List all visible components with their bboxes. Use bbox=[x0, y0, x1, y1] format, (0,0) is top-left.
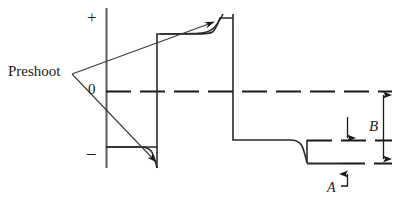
a-dimension-label: A bbox=[327, 181, 336, 195]
zero-axis-label: 0 bbox=[88, 82, 96, 97]
preshoot-label: Preshoot bbox=[8, 64, 61, 79]
negative-axis-label: – bbox=[87, 144, 96, 161]
waveform-svg bbox=[0, 0, 405, 204]
positive-axis-label: + bbox=[87, 9, 97, 26]
waveform-figure: Preshoot + 0 – B A bbox=[0, 0, 405, 204]
preshoot-leader-lower bbox=[72, 74, 156, 162]
preshoot-leader-upper bbox=[72, 22, 214, 74]
b-dimension-label: B bbox=[369, 119, 378, 134]
undershoot-curve-left bbox=[106, 147, 157, 168]
a-leader-line bbox=[341, 174, 348, 186]
